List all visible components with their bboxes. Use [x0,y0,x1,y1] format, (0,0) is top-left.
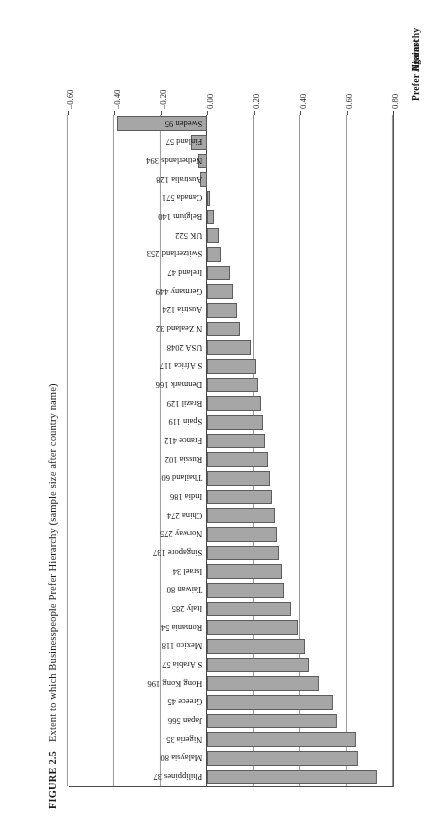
bar[interactable] [207,695,332,710]
bar-category-label: Russia 102 [165,450,203,469]
bar[interactable] [207,714,337,729]
bar-row[interactable]: Germany 449 [69,282,393,301]
bar-row[interactable]: Italy 285 [69,599,393,618]
bar-row[interactable]: USA 2048 [69,338,393,357]
bar-row[interactable]: Finland 57 [69,133,393,152]
bar-category-label: Sweden 95 [165,114,203,133]
bar-category-label: Malaysia 80 [161,749,203,768]
bar-row[interactable]: Denmark 166 [69,375,393,394]
axis-tick [254,111,255,115]
bar-category-label: Belgium 140 [158,207,202,226]
axis-tick [393,111,394,115]
figure-caption-text: Extent to which Businesspeople Prefer Hi… [47,383,58,742]
bar-row[interactable]: Switzerland 253 [69,245,393,264]
bar[interactable] [207,210,214,225]
bar-category-label: Austria 124 [162,301,202,320]
bar-category-label: Greece 45 [168,693,203,712]
axis-tick-label: 0.40 [298,49,308,109]
figure-caption: FIGURE 2.5Extent to which Businesspeople… [42,9,64,809]
bar-row[interactable]: Sweden 95 [69,114,393,133]
bar-row[interactable]: Romania 54 [69,618,393,637]
bar[interactable] [207,527,277,542]
bar-category-label: Germany 449 [156,282,203,301]
bar-row[interactable]: S Africa 117 [69,357,393,376]
figure-2-5: FIGURE 2.5Extent to which Businesspeople… [0,0,440,817]
bar-row[interactable]: Spain 119 [69,413,393,432]
bar[interactable] [207,396,260,411]
bar-row[interactable]: S Arabia 57 [69,655,393,674]
bar[interactable] [207,191,209,206]
bar-category-label: Israel 34 [173,562,203,581]
bar-row[interactable]: Russia 102 [69,450,393,469]
bar-category-label: Philippines 37 [153,767,202,786]
bar-category-label: Finland 57 [166,133,203,152]
bar[interactable] [207,471,270,486]
axis-tick-label: 0.00 [205,49,215,109]
bar-row[interactable]: India 186 [69,487,393,506]
bar-row[interactable]: Japan 566 [69,711,393,730]
bar-row[interactable]: Taiwan 80 [69,581,393,600]
bar-row[interactable]: Austria 124 [69,301,393,320]
bar-category-label: Italy 285 [172,599,202,618]
bar[interactable] [207,434,265,449]
bar[interactable] [207,266,230,281]
bar-row[interactable]: Norway 275 [69,525,393,544]
bar-row[interactable]: Israel 34 [69,562,393,581]
bar-row[interactable]: Mexico 118 [69,637,393,656]
bar[interactable] [207,564,281,579]
bar-row[interactable]: Philippines 37 [69,767,393,786]
bar-row[interactable]: Belgium 140 [69,207,393,226]
bar[interactable] [207,303,237,318]
bar-category-label: Hong Kong 196 [148,674,203,693]
bar-row[interactable]: Singapore 137 [69,543,393,562]
bar-category-label: Switzerland 253 [147,245,202,264]
bar[interactable] [207,247,221,262]
bar-category-label: Netherlands 394 [146,151,202,170]
bar-row[interactable]: Brazil 129 [69,394,393,413]
bar-row[interactable]: UK 522 [69,226,393,245]
bar-category-label: Mexico 118 [162,637,203,656]
bar-row[interactable]: Hong Kong 196 [69,674,393,693]
bar-category-label: N Zealand 32 [156,319,202,338]
bar[interactable] [207,546,279,561]
bar[interactable] [207,340,251,355]
axis-title-against: Against [410,39,421,72]
axis-tick-label: 0.60 [344,49,354,109]
bar[interactable] [207,359,256,374]
bar[interactable] [207,284,233,299]
bar-row[interactable]: China 274 [69,506,393,525]
bar[interactable] [207,676,318,691]
axis-tick [347,111,348,115]
bar[interactable] [207,583,284,598]
bar[interactable] [207,602,291,617]
axis-tick [300,111,301,115]
value-axis: 0.800.600.400.200.00–0.20–0.40–0.60 [69,55,394,115]
bar-category-label: Nigeria 35 [166,730,202,749]
bar-row[interactable]: Canada 571 [69,189,393,208]
bar[interactable] [207,751,358,766]
bar-row[interactable]: Malaysia 80 [69,749,393,768]
bar[interactable] [207,732,356,747]
bar-row[interactable]: Nigeria 35 [69,730,393,749]
bar[interactable] [207,490,272,505]
bar[interactable] [207,508,274,523]
bar[interactable] [207,378,258,393]
bar[interactable] [207,452,267,467]
bar-row[interactable]: Netherlands 394 [69,151,393,170]
bar[interactable] [207,322,240,337]
bar[interactable] [207,770,376,785]
bar-row[interactable]: Ireland 47 [69,263,393,282]
bar-row[interactable]: Australia 128 [69,170,393,189]
bar[interactable] [207,620,298,635]
bar[interactable] [207,639,305,654]
bar-category-label: China 274 [167,506,202,525]
bar-row[interactable]: N Zealand 32 [69,319,393,338]
axis-tick-label: –0.40 [112,49,122,109]
bar[interactable] [207,658,309,673]
bar-row[interactable]: France 412 [69,431,393,450]
bar[interactable] [207,415,263,430]
bar-row[interactable]: Greece 45 [69,693,393,712]
bar-row[interactable]: Thailand 60 [69,469,393,488]
bar-category-label: Singapore 137 [153,543,202,562]
bar[interactable] [207,228,219,243]
